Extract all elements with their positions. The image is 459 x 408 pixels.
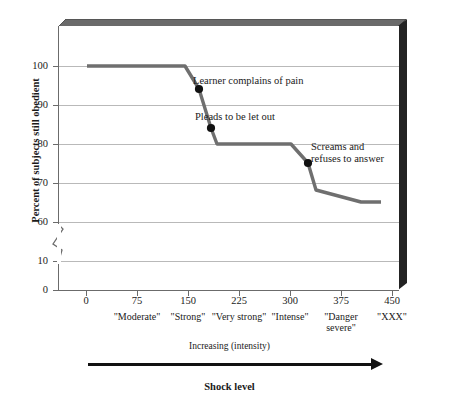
chart-figure: Percent of subjects still obedient	[0, 0, 459, 408]
x-axis-sublabel: Increasing (intensity)	[0, 341, 459, 351]
plot-3d-right-edge	[398, 19, 407, 290]
y-tickmark-70	[53, 183, 58, 184]
increasing-arrow-head	[371, 358, 383, 370]
x-axis-title: Shock level	[0, 381, 459, 392]
y-tickmark-100	[53, 66, 58, 67]
y-tick-label: 80	[8, 139, 48, 149]
y-tickmark-0	[53, 290, 58, 291]
x-tick-label: 450	[362, 295, 422, 306]
annotation-pleads-let-out: Pleads to be let out	[195, 111, 275, 123]
y-tickmark-90	[53, 105, 58, 106]
x-category-xxx: "XXX"	[360, 311, 424, 322]
y-tickmark-80	[53, 144, 58, 145]
axis-break-mask	[57, 224, 61, 264]
y-tick-label: 90	[8, 100, 48, 110]
y-tick-label: 100	[8, 61, 48, 71]
y-tickmark-60	[53, 222, 58, 223]
annotation-learner-complains: Learner complains of pain	[193, 75, 304, 87]
data-point-marker	[207, 124, 215, 132]
y-tick-label: 70	[8, 178, 48, 188]
increasing-arrow-shaft	[88, 363, 373, 366]
annotation-screams-refuses: Screams and refuses to answer	[311, 141, 384, 164]
y-tick-label: 60	[8, 217, 48, 227]
y-tick-label: 0	[8, 285, 48, 295]
y-tick-label: 10	[8, 256, 48, 266]
